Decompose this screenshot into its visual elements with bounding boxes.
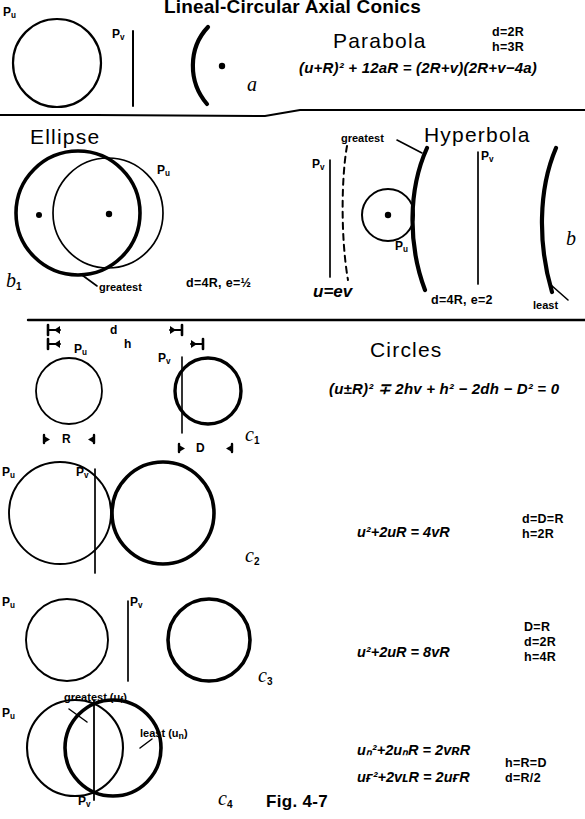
dimension-label-d: d <box>110 324 117 336</box>
c4-least-annotation: least (un) <box>140 728 188 741</box>
parabola-arc <box>193 27 208 104</box>
parabola-focus-dot <box>219 63 225 69</box>
c2-equation: u²+2uR = 4vR <box>357 525 450 540</box>
c3-pv-label: Pv <box>130 596 143 610</box>
hyperbola-pu-label: Pu <box>395 240 408 254</box>
c4-pu-circle <box>27 700 123 796</box>
parabola-pu-label: Pu <box>3 6 16 20</box>
hyperbola-relation: u=ev <box>313 283 352 300</box>
hyperbola-dashed-branch <box>343 146 348 280</box>
c3-case-label: c3 <box>258 665 272 687</box>
c4-case-label: c4 <box>218 788 232 810</box>
circles-section-title: Circles <box>370 339 443 360</box>
c2-pv-label: Pv <box>76 466 89 480</box>
hyperbola-branch-right <box>542 148 556 292</box>
c3-pu-label: Pu <box>2 596 15 610</box>
c2-pu-label: Pu <box>2 466 15 480</box>
c1-pu-label: Pu <box>74 343 87 357</box>
dimension-label-h: h <box>124 338 131 350</box>
ellipse-circle-outer <box>16 151 140 275</box>
c3-condition-2: d=2R <box>524 636 556 649</box>
ellipse-case-label: b1 <box>6 270 22 292</box>
c4-equation-2: uғ²+2vʟR = 2uғR <box>357 770 470 785</box>
c3-condition-3: h=4R <box>524 651 556 664</box>
hyperbola-case-label: b <box>566 228 576 248</box>
parabola-condition-h: h=3R <box>492 41 524 54</box>
figure-root: Lineal-Circular Axial Conics <box>0 0 585 819</box>
parabola-pu-circle <box>13 19 101 107</box>
parabola-pv-label: Pv <box>112 28 125 42</box>
c1-measure-label-R: R <box>62 433 71 445</box>
hyperbola-pv-label-left: Pv <box>312 158 325 172</box>
hyperbola-section-title: Hyperbola <box>424 124 531 145</box>
c4-pu-label: Pu <box>2 707 15 721</box>
c1-pv-circle <box>175 358 241 424</box>
c2-pv-circle <box>112 462 214 564</box>
parabola-condition-d: d=2R <box>492 26 524 39</box>
ellipse-condition: d=4R, e=½ <box>186 277 251 290</box>
ellipse-pu-label: Pu <box>157 164 170 178</box>
c4-condition-1: h=R=D <box>505 757 547 770</box>
c1-pv-label: Pv <box>158 352 171 366</box>
c1-pu-circle <box>36 358 102 424</box>
hyperbola-least-annotation: least <box>533 300 558 311</box>
divider-1 <box>0 110 585 116</box>
ellipse-focus-dot-left <box>36 212 42 218</box>
ellipse-greatest-leader <box>82 275 97 286</box>
ellipse-greatest-annotation: greatest <box>99 282 142 293</box>
hyperbola-pv-label-right: Pv <box>481 150 494 164</box>
hyperbola-pu-dot <box>385 212 391 218</box>
parabola-section-title: Parabola <box>333 30 427 51</box>
c4-pv-label: Pv <box>78 795 91 809</box>
c2-condition-2: h=2R <box>522 528 554 541</box>
c4-pv-circle <box>65 700 161 796</box>
c1-measure-D <box>179 444 232 452</box>
hyperbola-greatest-annotation: greatest <box>341 133 384 144</box>
c4-equation-1: uₙ²+2uₙR = 2vʀR <box>357 743 470 758</box>
c2-condition-1: d=D=R <box>522 513 564 526</box>
parabola-equation: (u+R)² + 12aR = (2R+v)(2R+v−4a) <box>299 60 537 75</box>
parabola-case-label: a <box>247 74 257 94</box>
c3-equation: u²+2uR = 8vR <box>357 645 450 660</box>
c3-pv-circle <box>168 599 250 681</box>
c1-case-label: c1 <box>245 424 259 446</box>
c4-greatest-annotation: greatest (uf) <box>64 692 127 705</box>
hyperbola-condition: d=4R, e=2 <box>431 294 493 307</box>
ellipse-section-title: Ellipse <box>30 126 100 147</box>
c3-pu-circle <box>26 599 108 681</box>
figure-caption: Fig. 4-7 <box>266 793 328 810</box>
circles-general-equation: (u±R)² ∓ 2hv + h² − 2dh − D² = 0 <box>329 381 559 396</box>
hyperbola-greatest-leader <box>397 140 422 153</box>
c3-condition-1: D=R <box>524 621 550 634</box>
c4-condition-2: d=R/2 <box>505 772 541 785</box>
ellipse-focus-dot-right <box>106 211 112 217</box>
c2-case-label: c2 <box>245 545 259 567</box>
c1-measure-label-D: D <box>196 442 205 454</box>
